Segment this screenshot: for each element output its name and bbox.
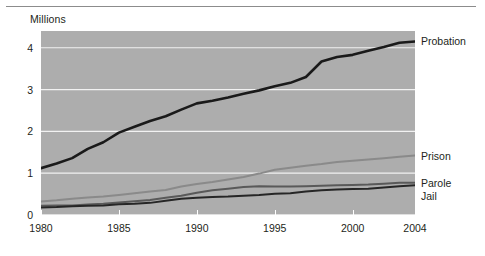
x-tick-label: 1990 — [185, 222, 208, 234]
x-tick-mark — [119, 210, 120, 216]
y-tick-label: 3 — [27, 84, 33, 96]
y-tick-label: 4 — [27, 42, 33, 54]
series-label-prison: Prison — [421, 150, 451, 162]
x-tick-label: 2004 — [403, 222, 426, 234]
y-axis: 01234 — [0, 0, 41, 256]
x-tick-label: 1985 — [107, 222, 130, 234]
y-tick-label: 2 — [27, 125, 33, 137]
x-tick-label: 1995 — [263, 222, 286, 234]
x-tick-mark — [415, 210, 416, 216]
x-tick-label: 1980 — [29, 222, 52, 234]
series-label-parole: Parole — [421, 177, 451, 189]
y-tick-label: 1 — [27, 167, 33, 179]
x-tick-mark — [275, 210, 276, 216]
header-divider — [6, 6, 476, 7]
plot-area — [41, 31, 415, 215]
series-line-prison — [41, 156, 415, 202]
x-tick-label: 2000 — [341, 222, 364, 234]
series-line-probation — [41, 41, 415, 168]
y-tick-label: 0 — [27, 209, 33, 221]
series-canvas — [41, 31, 415, 215]
chart-figure: Millions 01234 198019851990199520002004 … — [0, 0, 485, 256]
series-line-parole — [41, 183, 415, 206]
series-label-probation: Probation — [421, 35, 466, 47]
x-tick-mark — [353, 210, 354, 216]
x-tick-mark — [197, 210, 198, 216]
x-tick-mark — [41, 210, 42, 216]
series-label-jail: Jail — [421, 190, 437, 202]
